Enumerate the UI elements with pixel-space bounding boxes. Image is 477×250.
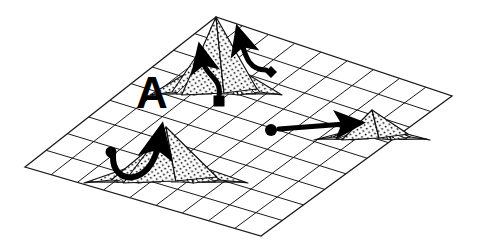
landscape-canvas: A (0, 0, 477, 250)
labels-group: A (136, 68, 168, 117)
marker-circle-right (265, 124, 277, 136)
peak-label-a: A (136, 68, 168, 117)
marker-square-center (214, 96, 225, 107)
fitness-landscape-figure: A (0, 0, 477, 250)
marker-circle-left (106, 147, 117, 158)
